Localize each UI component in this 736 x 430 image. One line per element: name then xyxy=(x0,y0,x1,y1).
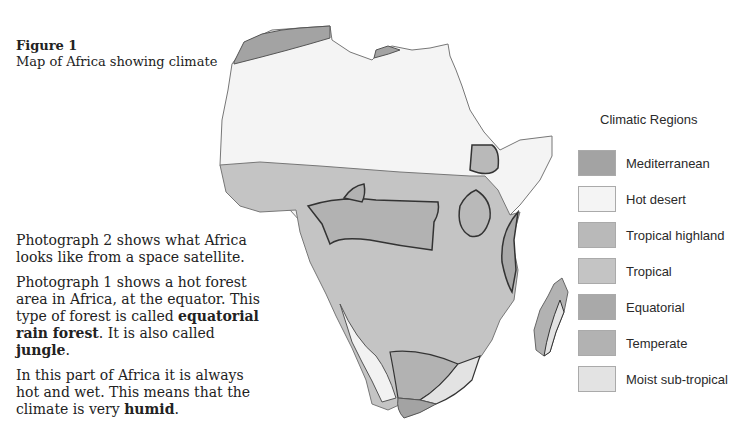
legend-item: Moist sub-tropical xyxy=(578,361,736,397)
legend-swatch xyxy=(578,150,616,176)
legend-item: Equatorial xyxy=(578,289,736,325)
legend-title: Climatic Regions xyxy=(600,112,736,127)
legend-swatch xyxy=(578,258,616,284)
legend: Climatic Regions MediterraneanHot desert… xyxy=(578,112,736,397)
legend-swatch xyxy=(578,366,616,392)
legend-label: Mediterranean xyxy=(626,156,710,171)
legend-item: Tropical xyxy=(578,253,736,289)
legend-label: Temperate xyxy=(626,336,687,351)
legend-swatch xyxy=(578,186,616,212)
legend-item: Temperate xyxy=(578,325,736,361)
legend-swatch xyxy=(578,330,616,356)
legend-label: Hot desert xyxy=(626,192,686,207)
legend-label: Equatorial xyxy=(626,300,685,315)
legend-item: Tropical highland xyxy=(578,217,736,253)
legend-label: Moist sub-tropical xyxy=(626,372,728,387)
legend-item: Mediterranean xyxy=(578,145,736,181)
legend-swatch xyxy=(578,222,616,248)
map-region-tropical-highland-ethiopia xyxy=(470,145,498,174)
legend-label: Tropical xyxy=(626,264,672,279)
legend-label: Tropical highland xyxy=(626,228,725,243)
legend-swatch xyxy=(578,294,616,320)
legend-item: Hot desert xyxy=(578,181,736,217)
legend-items: MediterraneanHot desertTropical highland… xyxy=(578,145,736,397)
